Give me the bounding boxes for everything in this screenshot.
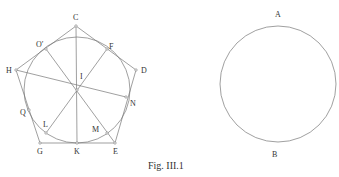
label-F: F [109,42,114,51]
label-A: A [275,10,281,19]
point-K [76,142,78,144]
circle-AB [220,26,336,142]
point-M [106,132,108,134]
label-M: M [92,125,99,134]
figure-caption: Fig. III.1 [148,160,184,171]
point-N [125,96,127,98]
point-Q [28,109,30,111]
point-D [135,69,137,71]
figure-canvas: C O′ F H D I N Q L M G K E A B Fig. III.… [0,0,339,177]
label-C: C [73,13,78,22]
line-O-E [46,49,115,143]
label-O: O′ [36,40,44,49]
right-figure: A B [220,10,336,159]
point-F [106,48,108,50]
point-E [114,142,116,144]
point-G [39,142,41,144]
point-C [75,25,77,27]
point-O [45,48,47,50]
label-H: H [6,66,12,75]
label-D: D [141,66,147,75]
point-I [76,89,78,91]
label-N: N [130,99,136,108]
left-figure: C O′ F H D I N Q L M G K E [6,13,147,156]
label-B: B [272,150,277,159]
label-Q: Q [20,108,26,117]
label-G: G [37,147,43,156]
point-H [15,69,17,71]
point-L [45,132,47,134]
label-K: K [74,147,80,156]
label-E: E [113,147,118,156]
label-I: I [80,72,83,81]
label-L: L [43,120,48,129]
